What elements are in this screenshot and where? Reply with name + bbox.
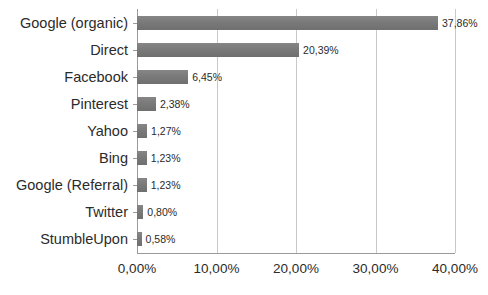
category-label: Google (Referral): [16, 178, 128, 193]
bar-value-label: 20,39%: [303, 44, 339, 55]
x-axis-tick-label: 0,00%: [118, 262, 156, 276]
category-label: Google (organic): [20, 15, 128, 30]
category-label: Twitter: [85, 205, 128, 220]
category-label: StumbleUpon: [40, 232, 128, 247]
bar: [137, 43, 299, 57]
bar-value-label: 1,27%: [151, 126, 181, 137]
category-label: Pinterest: [71, 97, 128, 112]
chart-row: StumbleUpon0,58%: [137, 226, 455, 253]
chart-row: Yahoo1,27%: [137, 117, 455, 144]
chart-row: Google (organic)37,86%: [137, 9, 455, 36]
bar-value-label: 2,38%: [160, 99, 190, 110]
bar: [137, 205, 143, 219]
bar: [137, 16, 438, 30]
x-axis-tick-label: 40,00%: [432, 262, 478, 276]
chart-row: Facebook6,45%: [137, 63, 455, 90]
category-label: Direct: [90, 42, 128, 57]
bar-chart: Google (organic)37,86%Direct20,39%Facebo…: [0, 0, 488, 295]
x-axis-tick-label: 30,00%: [353, 262, 399, 276]
bar: [137, 124, 147, 138]
x-axis-tick-label: 10,00%: [194, 262, 240, 276]
chart-row: Direct20,39%: [137, 36, 455, 63]
chart-row: Pinterest2,38%: [137, 90, 455, 117]
bar-value-label: 0,58%: [146, 234, 176, 245]
bar-value-label: 6,45%: [192, 72, 222, 83]
gridline: [455, 9, 456, 253]
category-label: Yahoo: [87, 124, 128, 139]
chart-row: Google (Referral)1,23%: [137, 172, 455, 199]
x-axis-baseline: [137, 253, 455, 254]
bar-value-label: 0,80%: [147, 207, 177, 218]
bar-value-label: 1,23%: [151, 153, 181, 164]
bar: [137, 232, 142, 246]
bar: [137, 151, 147, 165]
chart-row: Twitter0,80%: [137, 199, 455, 226]
category-label: Facebook: [64, 70, 128, 85]
plot-area: Google (organic)37,86%Direct20,39%Facebo…: [137, 9, 455, 253]
category-label: Bing: [99, 151, 128, 166]
chart-row: Bing1,23%: [137, 145, 455, 172]
bar-value-label: 1,23%: [151, 180, 181, 191]
bar: [137, 70, 188, 84]
x-axis-tick-label: 20,00%: [273, 262, 319, 276]
bar: [137, 97, 156, 111]
bar-value-label: 37,86%: [442, 17, 478, 28]
bar: [137, 178, 147, 192]
